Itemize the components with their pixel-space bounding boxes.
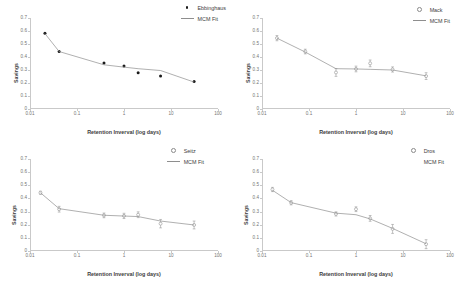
- y-axis-tick-label: 0.5: [253, 183, 259, 188]
- y-axis-tick-label: 0.3: [21, 209, 27, 214]
- y-axis-tick-label: 0.3: [253, 68, 259, 73]
- data-point-open: [369, 62, 372, 65]
- data-point-open: [334, 71, 337, 74]
- y-axis-tick-mark: [260, 225, 262, 226]
- panel-ebbinghaus: Savings 0.70.60.50.40.30.20.100.010.1110…: [0, 0, 232, 145]
- fit-line: [277, 38, 426, 76]
- line-marker-icon: [167, 161, 180, 162]
- y-axis-label: Savings: [11, 205, 17, 225]
- x-axis-tick-mark: [218, 109, 219, 111]
- x-axis-tick-label: 10: [400, 112, 405, 117]
- y-axis-tick-label: 0.4: [253, 196, 259, 201]
- y-axis-tick-mark: [260, 159, 262, 160]
- y-axis-tick-label: 0.5: [21, 183, 27, 188]
- y-axis-tick-label: 0.6: [253, 170, 259, 175]
- y-axis-tick-mark: [260, 198, 262, 199]
- x-axis-tick-label: 10: [168, 112, 173, 117]
- x-axis-tick-label: 10: [400, 254, 405, 259]
- x-axis-tick-label: 100: [446, 112, 454, 117]
- x-axis-tick-mark: [356, 109, 357, 111]
- y-axis-tick-mark: [28, 212, 30, 213]
- y-axis-tick-label: 0.6: [21, 29, 27, 34]
- legend-ebbinghaus: Ebbinghaus MCM Fit: [181, 2, 226, 24]
- legend-label-data: Ebbinghaus: [198, 5, 226, 11]
- x-axis-label: Retention Inverval (log days): [262, 271, 450, 277]
- y-axis-tick-mark: [28, 185, 30, 186]
- y-axis-tick-mark: [260, 185, 262, 186]
- x-axis-tick-mark: [356, 251, 357, 253]
- panel-mack: Savings 0.70.60.50.40.30.20.100.010.1110…: [232, 0, 464, 145]
- y-axis-label: Savings: [243, 205, 249, 225]
- x-axis-tick-label: 100: [214, 112, 222, 117]
- x-axis-tick-label: 1: [355, 254, 358, 259]
- y-axis-tick-mark: [260, 18, 262, 19]
- legend-entry-fit: MCM Fit: [413, 15, 450, 26]
- x-axis-tick-mark: [218, 251, 219, 253]
- x-axis-tick-label: 10: [168, 254, 173, 259]
- legend-label-fit: MCM Fit: [430, 18, 450, 24]
- x-axis-tick-mark: [309, 251, 310, 253]
- y-axis-tick-label: 0.2: [253, 222, 259, 227]
- x-axis-tick-mark: [403, 251, 404, 253]
- y-axis-tick-mark: [28, 172, 30, 173]
- y-axis-tick-label: 0.7: [253, 16, 259, 21]
- y-axis-tick-mark: [28, 70, 30, 71]
- legend-label-fit: MCM Fit: [424, 159, 444, 165]
- fit-line: [45, 34, 194, 82]
- plot-area-dros: 0.70.60.50.40.30.20.100.010.1110100: [262, 159, 450, 251]
- y-axis-tick-label: 0.2: [21, 222, 27, 227]
- y-axis-tick-label: 0.7: [253, 157, 259, 162]
- legend-label-data: Dros: [424, 148, 435, 154]
- y-axis-tick-mark: [28, 238, 30, 239]
- x-axis-tick-mark: [77, 109, 78, 111]
- data-point-open: [275, 37, 278, 40]
- legend-label-fit: MCM Fit: [198, 16, 218, 22]
- y-axis-tick-mark: [28, 44, 30, 45]
- y-axis-tick-label: 0.5: [21, 42, 27, 47]
- y-axis-tick-label: 0.4: [21, 55, 27, 60]
- y-axis-tick-label: 0.1: [21, 94, 27, 99]
- legend-label-data: Mack: [430, 7, 443, 13]
- x-axis-tick-mark: [262, 251, 263, 253]
- y-axis-tick-label: 0.2: [253, 81, 259, 86]
- plot-area-ebbinghaus: 0.70.60.50.40.30.20.100.010.1110100: [30, 18, 218, 109]
- x-axis-tick-mark: [450, 109, 451, 111]
- y-axis-tick-mark: [260, 212, 262, 213]
- y-axis-tick-label: 0.4: [21, 196, 27, 201]
- y-axis-tick-mark: [260, 83, 262, 84]
- x-axis-tick-label: 100: [446, 254, 454, 259]
- y-axis-tick-mark: [28, 159, 30, 160]
- y-axis-tick-mark: [260, 238, 262, 239]
- open-circle-marker-icon: [413, 7, 426, 12]
- y-axis-tick-label: 0.1: [253, 94, 259, 99]
- series-layer: [30, 159, 218, 251]
- y-axis-tick-label: 0.7: [21, 16, 27, 21]
- y-axis-tick-label: 0.5: [253, 42, 259, 47]
- data-point-open: [355, 208, 358, 211]
- data-point-filled: [137, 71, 140, 74]
- x-axis-tick-label: 0.1: [74, 254, 80, 259]
- y-axis-tick-mark: [260, 172, 262, 173]
- legend-entry-data: Ebbinghaus: [181, 2, 226, 13]
- y-axis-tick-mark: [260, 70, 262, 71]
- y-axis-tick-label: 0.3: [21, 68, 27, 73]
- x-axis-tick-mark: [309, 109, 310, 111]
- legend-mack: Mack MCM Fit: [413, 4, 450, 26]
- x-axis-label: Retention Inverval (log days): [262, 129, 450, 135]
- x-axis-tick-mark: [450, 251, 451, 253]
- panel-seitz: Savings 0.70.60.50.40.30.20.100.010.1110…: [0, 145, 232, 285]
- plot-area-seitz: 0.70.60.50.40.30.20.100.010.1110100: [30, 159, 218, 251]
- figure-panel-grid: Savings 0.70.60.50.40.30.20.100.010.1110…: [0, 0, 464, 285]
- legend-entry-data: Mack: [413, 4, 450, 15]
- x-axis-tick-mark: [403, 109, 404, 111]
- x-axis-tick-mark: [171, 251, 172, 253]
- y-axis-tick-label: 0.2: [21, 81, 27, 86]
- y-axis-tick-mark: [28, 96, 30, 97]
- panel-dros: Savings 0.70.60.50.40.30.20.100.010.1110…: [232, 145, 464, 285]
- fit-line: [272, 190, 426, 243]
- y-axis-tick-mark: [28, 31, 30, 32]
- y-axis-tick-label: 0.6: [21, 170, 27, 175]
- data-point-filled: [159, 74, 162, 77]
- y-axis-tick-label: 0.3: [253, 209, 259, 214]
- line-marker-icon: [181, 18, 194, 19]
